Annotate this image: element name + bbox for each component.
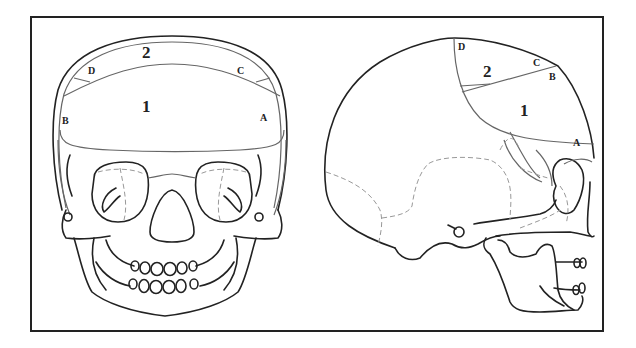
lateral-face-edge (587, 182, 594, 237)
frontal-skull: 2 1 D C B A (53, 36, 287, 316)
skull-diagram: 2 1 D C B A (0, 0, 636, 348)
frontal-region-boundary-lower (60, 130, 284, 152)
frontal-lower-teeth (129, 279, 198, 294)
lateral-upper-teeth (574, 258, 586, 268)
lateral-lower-teeth (573, 283, 585, 295)
frontal-ear-left (64, 213, 72, 221)
lateral-suture-squamosal (382, 157, 511, 220)
lateral-skull: 2 1 D C B A (325, 38, 594, 312)
frontal-temporal-line-right (256, 155, 261, 196)
frontal-maxilla-line-right (196, 240, 224, 266)
frontal-temporal-line-left (67, 155, 72, 196)
lateral-suture-lambdoid (326, 172, 382, 246)
frontal-orbit-left-fissure (103, 188, 121, 212)
lateral-label-region-1: 1 (520, 101, 529, 120)
lateral-label-point-B: B (549, 71, 556, 82)
frontal-ear-right (255, 213, 263, 221)
frontal-label-region-1: 1 (142, 97, 151, 116)
frontal-region-boundary-upper (64, 64, 280, 96)
lateral-suture-sphenoid (520, 168, 548, 178)
frontal-mandible (74, 238, 256, 316)
lateral-region-boundary-upper (462, 66, 556, 92)
lateral-suture-coronal-lower (500, 138, 520, 150)
lateral-label-point-D: D (458, 41, 465, 52)
lateral-mastoid-tick (448, 225, 456, 229)
frontal-nasal-aperture (150, 190, 194, 242)
lateral-zygomatic-arch (474, 200, 556, 224)
lateral-orbit-rim-2 (504, 140, 542, 182)
lateral-mandible (484, 238, 583, 312)
frontal-label-point-C: C (237, 65, 244, 76)
frontal-label-point-D: D (88, 65, 95, 76)
frontal-upper-teeth (131, 261, 197, 276)
lateral-label-region-2: 2 (483, 62, 492, 81)
lateral-arch-lower (496, 232, 590, 236)
lateral-cranium-outline (325, 38, 594, 248)
lateral-orbit (553, 159, 584, 214)
lateral-suture-face (520, 186, 568, 228)
lateral-label-point-C: C (533, 57, 540, 68)
frontal-nasal-bridge (148, 174, 196, 178)
lateral-label-point-A: A (573, 137, 581, 148)
frontal-tick-D (74, 78, 90, 82)
frontal-label-region-2: 2 (142, 43, 151, 62)
frontal-maxilla-line-left (106, 240, 134, 266)
frontal-mandible-inner-right (224, 238, 238, 290)
frontal-mandible-inner-left (93, 238, 107, 290)
frontal-tick-C (256, 78, 270, 82)
frontal-orbit-right-fissure (224, 188, 242, 212)
frontal-label-point-B: B (62, 115, 69, 126)
frontal-label-point-A: A (260, 112, 268, 123)
lateral-region-boundary-D-A (454, 38, 594, 144)
